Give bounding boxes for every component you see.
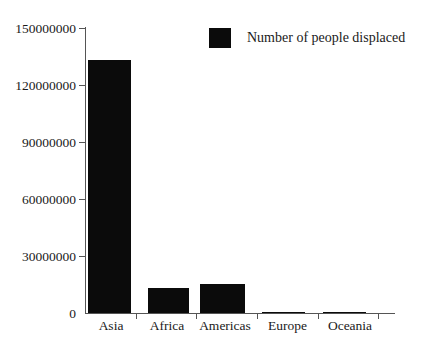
x-tick-label-europe: Europe [257, 318, 318, 333]
x-axis-line [85, 313, 395, 314]
y-tick-mark-120000000 [79, 85, 86, 86]
bars-layer [0, 0, 435, 351]
y-tick-label-0: 0 [69, 307, 76, 321]
x-tick-label-americas: Americas [193, 318, 257, 333]
y-tick-mark-150000000 [79, 28, 86, 29]
y-tick-mark-60000000 [79, 199, 86, 200]
bar-europe[interactable] [262, 312, 305, 313]
y-tick-label-150000000: 150000000 [15, 22, 76, 36]
legend: Number of people displaced [209, 28, 405, 48]
y-tick-label-120000000: 120000000 [15, 79, 76, 93]
bar-africa[interactable] [148, 288, 189, 313]
y-tick-label-90000000: 90000000 [22, 136, 76, 150]
x-tick-label-asia: Asia [86, 318, 136, 333]
x-tick-label-africa: Africa [141, 318, 193, 333]
x-tick-mark-1 [136, 313, 137, 319]
x-tick-label-oceania: Oceania [318, 318, 382, 333]
legend-label-number-of-people-displaced: Number of people displaced [247, 30, 405, 46]
y-tick-label-60000000: 60000000 [22, 193, 76, 207]
y-tick-mark-30000000 [79, 256, 86, 257]
bar-chart: 150000000 120000000 90000000 60000000 30… [0, 0, 435, 351]
y-tick-label-30000000: 30000000 [22, 250, 76, 264]
bar-americas[interactable] [200, 284, 245, 313]
legend-swatch-number-of-people-displaced [209, 28, 231, 48]
y-tick-mark-90000000 [79, 142, 86, 143]
y-axis-line [85, 27, 86, 314]
bar-oceania[interactable] [323, 312, 366, 313]
bar-asia[interactable] [88, 60, 131, 313]
